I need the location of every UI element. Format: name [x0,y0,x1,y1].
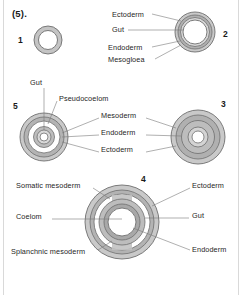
embryo-germ-layer-figure: (5). [0,0,243,295]
label-stage5-pseudocoelom: Pseudocoelom [59,94,108,103]
figure-caption-number: (5). [12,8,27,19]
stage-number-1: 1 [18,35,23,45]
stage-number-4: 4 [141,174,146,184]
stage-5-diagram [20,113,68,161]
stage-5-leader-lines [44,88,57,130]
label-stage5-gut: Gut [30,78,42,87]
stage-4-diagram [85,185,159,259]
stage-number-5: 5 [13,101,18,111]
stage-2-diagram [175,12,215,52]
label-stage2-endoderm: Endoderm [108,43,142,52]
label-shared-endoderm: Endoderm [101,128,135,137]
label-shared-mesoderm: Mesoderm [101,111,136,120]
label-stage4-splanchnic-mesoderm: Splanchnic mesoderm [11,247,85,256]
frame-border-left [3,0,4,295]
label-shared-ectoderm: Ectoderm [101,145,133,154]
stage-1-diagram [34,26,62,54]
stage-number-3: 3 [221,99,226,109]
label-stage2-mesogloea: Mesogloea [108,55,145,64]
label-stage4-ectoderm: Ectoderm [192,181,224,190]
label-stage4-endoderm: Endoderm [192,245,226,254]
label-stage2-ectoderm: Ectoderm [112,10,144,19]
label-stage2-gut: Gut [112,25,124,34]
stage-2-leader-lines [128,14,183,59]
label-stage4-coelom: Coelom [16,212,42,221]
stage-3-diagram [171,110,225,164]
stage-number-2: 2 [223,29,228,39]
label-stage4-gut: Gut [192,211,204,220]
frame-border-right [238,0,239,295]
stage-4-leader-lines [52,188,190,250]
label-stage4-somatic-mesoderm: Somatic mesoderm [16,181,80,190]
